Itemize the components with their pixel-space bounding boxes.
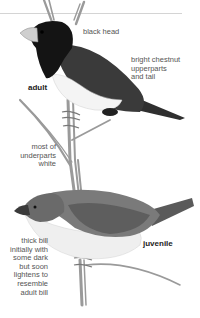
label-thick-bill: thick bill initially with some dark but … [0, 237, 48, 297]
adult-feet [62, 111, 80, 128]
label-adult: adult [28, 84, 47, 93]
label-juvenile: juvenile [143, 240, 173, 249]
label-line: and tail [131, 73, 180, 82]
label-line: white [18, 160, 56, 169]
label-black-head: black head [83, 28, 119, 37]
label-underparts-white: most of underparts white [18, 143, 56, 169]
label-line: adult bill [0, 289, 48, 298]
label-chestnut-upperparts: bright chestnut upperparts and tail [131, 56, 180, 82]
